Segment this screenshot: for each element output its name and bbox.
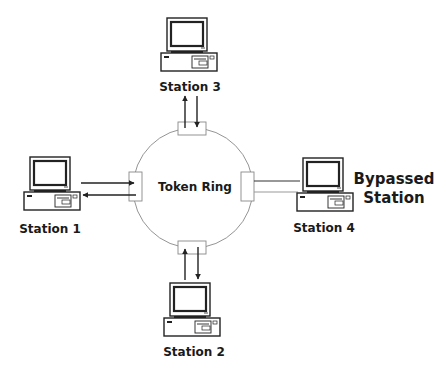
station-1-label: Station 1 (19, 222, 81, 236)
station-2-computer-icon (164, 283, 220, 336)
annotation-line-1: Bypassed (354, 170, 435, 189)
port-top (178, 122, 206, 135)
port-bottom (178, 241, 206, 254)
port-left (129, 172, 142, 201)
station-4-computer-icon (297, 158, 353, 211)
annotation-line-2: Station (354, 189, 435, 208)
station-4-label: Station 4 (293, 221, 355, 235)
station-3-computer-icon (161, 18, 217, 71)
port-right (241, 172, 254, 201)
token-ring-label: Token Ring (158, 180, 232, 194)
station-3-label: Station 3 (159, 80, 221, 94)
bypassed-station-annotation: Bypassed Station (354, 170, 435, 208)
station-1-computer-icon (24, 157, 80, 210)
station-2-label: Station 2 (163, 345, 225, 359)
